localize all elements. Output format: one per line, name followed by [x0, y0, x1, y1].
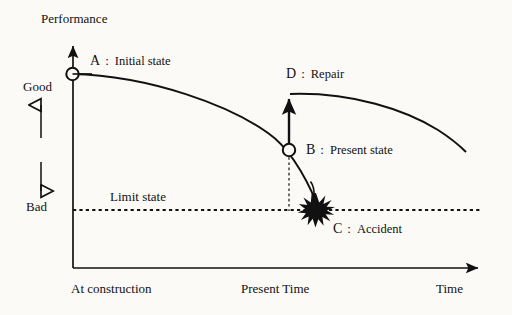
- annotation-a: A : Initial state: [90, 53, 171, 69]
- annotation-b-text: Present state: [330, 143, 393, 158]
- point-b-marker: [283, 144, 295, 156]
- x-axis-title: Time: [436, 282, 463, 295]
- x-label-at-construction: At construction: [71, 282, 152, 295]
- deterioration-curve: [72, 74, 318, 206]
- annotation-a-text: Initial state: [115, 54, 171, 69]
- annotation-c-separator: :: [347, 221, 351, 237]
- annotation-b: B : Present state: [306, 142, 393, 158]
- annotation-c-key: C: [333, 221, 342, 237]
- limit-state-label: Limit state: [110, 190, 166, 203]
- annotation-d: D : Repair: [286, 66, 344, 82]
- y-label-bad: Bad: [26, 200, 47, 213]
- y-label-good: Good: [23, 80, 52, 93]
- annotation-c-text: Accident: [357, 222, 402, 237]
- annotation-d-separator: :: [301, 66, 305, 82]
- annotation-a-separator: :: [105, 53, 109, 69]
- annotation-b-separator: :: [320, 142, 324, 158]
- annotation-d-key: D: [286, 66, 296, 82]
- annotation-a-key: A: [90, 53, 100, 69]
- x-label-present-time: Present Time: [241, 282, 309, 295]
- performance-time-diagram: [0, 0, 512, 315]
- annotation-d-text: Repair: [311, 67, 344, 82]
- y-axis-title: Performance: [41, 12, 107, 25]
- annotation-c: C : Accident: [333, 221, 402, 237]
- diagram-canvas: Performance Time Good Bad At constructio…: [0, 0, 512, 315]
- annotation-b-key: B: [306, 142, 315, 158]
- accident-starburst-icon: [298, 182, 335, 228]
